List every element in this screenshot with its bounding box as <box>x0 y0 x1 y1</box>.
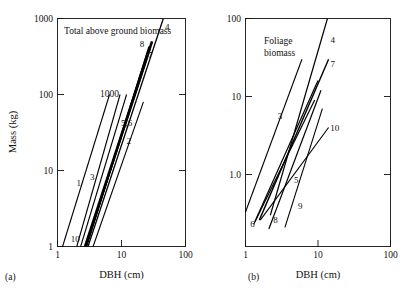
panel-b-xtick-100: 100 <box>383 250 398 260</box>
panel-a-ytick-1000: 1000 <box>34 14 53 24</box>
panel-b-xtick-10: 10 <box>313 250 323 260</box>
series-label-10: 10 <box>330 123 340 133</box>
biomass-allometry-figure: 1000 100 10 1 1 10 100 DBH (cm) Mass (kg… <box>0 0 410 295</box>
panel-b-annotation-line2: biomass <box>264 48 295 58</box>
panel-b-annotation-line1: Foliage <box>264 36 293 46</box>
series-line-8 <box>269 90 321 229</box>
panel-a-series-labels: 12345,67810 <box>71 22 170 244</box>
series-label-7: 7 <box>148 50 153 60</box>
series-label-8: 8 <box>140 39 145 49</box>
series-label-2: 2 <box>127 136 132 146</box>
panel-a-ytick-100: 100 <box>39 90 54 100</box>
panel-b-tag: (b) <box>248 272 259 283</box>
panel-a-ytick-10: 10 <box>44 166 54 176</box>
panel-a-xlabel: DBH (cm) <box>99 269 144 281</box>
series-line-9 <box>285 109 322 228</box>
panel-a-ytick-1: 1 <box>48 242 53 252</box>
series-label-5: 5 <box>294 175 299 185</box>
series-label-4: 4 <box>331 35 336 45</box>
series-label-7: 7 <box>331 59 336 69</box>
series-label-4: 4 <box>165 22 170 32</box>
series-line-9 <box>87 50 148 246</box>
panel-a-xtick-100: 100 <box>178 250 193 260</box>
panel-b-ytick-100: 100 <box>227 14 242 24</box>
panel-b-x-ticks <box>246 240 391 247</box>
panel-a-extra-annotation: 1000 <box>100 89 119 99</box>
panel-b-xtick-1: 1 <box>243 250 248 260</box>
series-label-3: 3 <box>278 111 283 121</box>
panel-a-xtick-10: 10 <box>117 250 127 260</box>
panel-b: 100 10 1.0 1 10 100 DBH (cm) (b) Foliage… <box>227 14 398 283</box>
series-label-3: 3 <box>90 172 95 182</box>
series-label-8: 8 <box>273 215 278 225</box>
panel-a-xtick-1: 1 <box>55 250 60 260</box>
panel-a-annotation: Total above ground biomass <box>64 26 172 36</box>
series-label-1: 1 <box>77 178 82 188</box>
panel-b-xlabel: DBH (cm) <box>296 269 341 281</box>
panel-a-ylabel: Mass (kg) <box>7 110 19 153</box>
panel-b-ytick-10: 10 <box>232 92 242 102</box>
panel-a: 1000 100 10 1 1 10 100 DBH (cm) Mass (kg… <box>5 14 193 283</box>
series-label-10: 10 <box>71 234 81 244</box>
series-line-1 <box>63 95 110 247</box>
series-line-7 <box>259 59 328 220</box>
series-label-5-6: 5,6 <box>121 118 133 128</box>
panel-b-ytick-1: 1.0 <box>229 170 241 180</box>
series-label-6: 6 <box>250 219 255 229</box>
series-label-9: 9 <box>298 201 303 211</box>
panel-a-tag: (a) <box>5 272 16 283</box>
